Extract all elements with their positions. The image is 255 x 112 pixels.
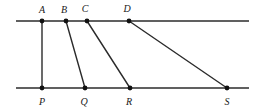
- vertex-dot-a: [40, 19, 45, 24]
- vertex-dot-q: [83, 86, 88, 91]
- point-label-d: D: [122, 3, 131, 14]
- geometry-figure: ABCDPQRS: [0, 0, 255, 112]
- point-label-s: S: [225, 96, 230, 107]
- transversals-group: [42, 21, 227, 88]
- rails-group: [16, 21, 249, 88]
- vertex-dot-c: [85, 19, 90, 24]
- vertex-dot-b: [64, 19, 69, 24]
- point-label-a: A: [38, 4, 46, 15]
- point-label-p: P: [38, 96, 45, 107]
- figure-canvas: ABCDPQRS: [0, 0, 255, 112]
- vertex-dot-d: [127, 19, 132, 24]
- vertex-dot-p: [40, 86, 45, 91]
- vertex-dot-r: [128, 86, 133, 91]
- point-label-c: C: [82, 3, 89, 14]
- segment-CR: [87, 21, 130, 88]
- point-label-q: Q: [80, 96, 88, 107]
- point-labels-group: ABCDPQRS: [38, 3, 230, 107]
- point-label-b: B: [61, 4, 67, 15]
- vertex-dot-s: [225, 86, 230, 91]
- segment-BQ: [66, 21, 85, 88]
- segment-DS: [129, 21, 227, 88]
- point-label-r: R: [125, 96, 132, 107]
